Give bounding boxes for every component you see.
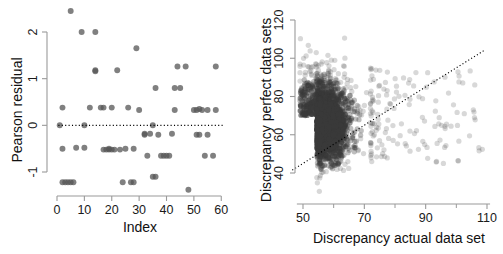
data-point <box>433 109 438 114</box>
x-tick-label: 10 <box>77 203 91 217</box>
data-point <box>314 127 319 132</box>
data-point <box>473 117 478 122</box>
data-point <box>471 109 476 114</box>
data-point <box>420 139 425 144</box>
y-tick-label: 0 <box>26 122 40 129</box>
data-point <box>60 146 66 152</box>
data-point <box>388 101 393 106</box>
data-point <box>196 132 202 138</box>
x-tick-label: 40 <box>160 203 174 217</box>
data-point <box>202 153 208 159</box>
data-point <box>125 105 131 111</box>
data-point <box>317 175 322 180</box>
data-point <box>374 154 379 159</box>
data-point <box>377 138 382 143</box>
y-axis-title: Discrepancy perfect data sets <box>258 18 274 202</box>
data-point <box>321 80 326 85</box>
data-point <box>456 158 461 163</box>
data-point <box>314 64 319 69</box>
left-scatter-svg: 0102030405060-1012 Index Pearson residua… <box>0 0 251 254</box>
data-point <box>343 121 348 126</box>
data-point <box>376 93 381 98</box>
x-axis-title: Index <box>123 219 157 235</box>
x-tick-label: 60 <box>214 203 228 217</box>
data-point <box>306 43 311 48</box>
data-point <box>330 112 335 117</box>
data-point <box>60 105 66 111</box>
data-point <box>442 75 447 80</box>
data-point <box>348 138 353 143</box>
data-point <box>383 80 388 85</box>
data-point <box>333 101 338 106</box>
data-point <box>342 75 347 80</box>
data-point <box>407 102 412 107</box>
data-point <box>370 97 375 102</box>
data-point <box>205 132 211 138</box>
data-point <box>340 136 345 141</box>
data-point <box>332 58 337 63</box>
data-point <box>210 153 216 159</box>
data-point <box>308 85 313 90</box>
data-point <box>326 69 331 74</box>
data-point <box>131 179 137 185</box>
data-point <box>385 69 390 74</box>
data-point <box>314 50 319 55</box>
data-point <box>362 103 367 108</box>
data-point <box>319 61 324 66</box>
data-point <box>73 145 79 151</box>
data-point <box>330 89 335 94</box>
panel-pearson-residual: 0102030405060-1012 Index Pearson residua… <box>0 0 251 254</box>
data-point <box>407 77 412 82</box>
data-point <box>304 93 309 98</box>
data-point <box>183 64 189 70</box>
right-scatter-svg: 507090110406080100120 Discrepancy actual… <box>251 0 503 254</box>
data-point <box>166 153 172 159</box>
data-point <box>153 85 159 91</box>
data-point <box>322 143 327 148</box>
data-point <box>310 90 315 95</box>
left-data-points <box>57 8 219 193</box>
data-point <box>451 102 456 107</box>
data-point <box>301 56 306 61</box>
data-point <box>472 82 477 87</box>
data-point <box>319 111 324 116</box>
data-point <box>433 98 438 103</box>
data-point <box>399 121 404 126</box>
data-point <box>414 128 419 133</box>
data-point <box>301 102 306 107</box>
data-point <box>325 53 330 58</box>
data-point <box>368 65 373 70</box>
data-point <box>448 124 453 129</box>
data-point <box>327 137 332 142</box>
data-point <box>136 107 142 113</box>
data-point <box>391 138 396 143</box>
data-point <box>376 84 381 89</box>
data-point <box>355 103 360 108</box>
data-point <box>122 146 128 152</box>
x-tick-label: 70 <box>357 211 371 225</box>
data-point <box>368 91 373 96</box>
data-point <box>319 87 324 92</box>
data-point <box>353 116 358 121</box>
data-point <box>368 140 373 145</box>
data-point <box>346 101 351 106</box>
data-point <box>315 180 320 185</box>
data-point <box>308 110 313 115</box>
data-point <box>147 131 153 137</box>
data-point <box>331 132 336 137</box>
data-point <box>317 134 322 139</box>
data-point <box>402 93 407 98</box>
data-point <box>393 76 398 81</box>
data-point <box>377 68 382 73</box>
data-point <box>326 155 331 160</box>
data-point <box>384 92 389 97</box>
data-point <box>455 123 460 128</box>
data-point <box>324 169 329 174</box>
data-point <box>302 112 307 117</box>
data-point <box>319 127 324 132</box>
data-point <box>199 107 205 113</box>
data-point <box>327 125 332 130</box>
data-point <box>345 81 350 86</box>
data-point <box>342 162 347 167</box>
data-point <box>324 92 329 97</box>
